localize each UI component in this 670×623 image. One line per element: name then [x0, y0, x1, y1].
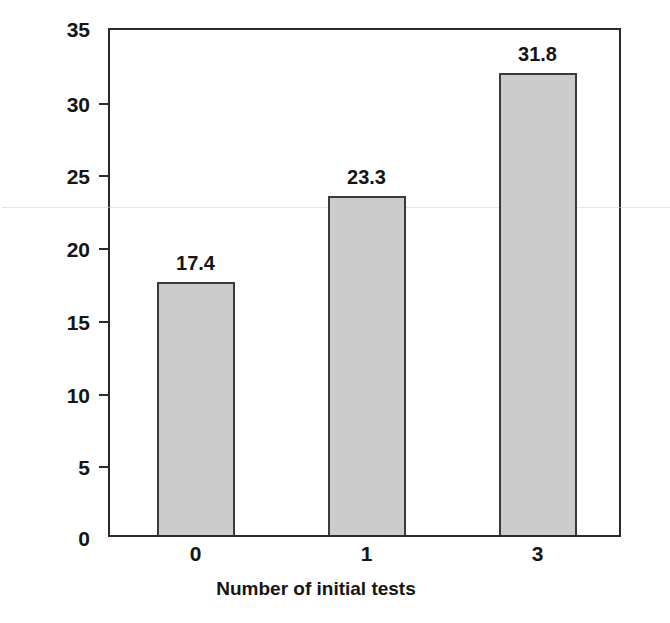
bar: 23.3 — [328, 196, 406, 535]
y-axis-tick: 15 — [99, 321, 110, 323]
bar-value-label: 23.3 — [347, 166, 386, 189]
y-axis-tick: 25 — [99, 175, 110, 177]
x-axis-title-text: Number of initial tests — [216, 578, 416, 600]
bar-value-label: 17.4 — [176, 252, 215, 275]
y-axis-tick: 20 — [99, 248, 110, 250]
y-axis-tick: 30 — [99, 103, 110, 105]
x-axis-tick-label: 0 — [190, 542, 202, 566]
y-axis-tick-label: 0 — [78, 527, 90, 551]
y-axis-tick-label: 30 — [67, 93, 90, 117]
y-axis-tick-label: 15 — [67, 311, 90, 335]
y-axis-tick-label: 5 — [78, 456, 90, 480]
x-axis-title: Number of initial tests — [0, 578, 668, 600]
y-axis-tick: 10 — [99, 394, 110, 396]
y-axis-tick: 5 — [99, 466, 110, 468]
x-axis-tick-label: 3 — [532, 542, 544, 566]
bar: 31.8 — [499, 73, 577, 535]
x-axis-tick-label: 1 — [361, 542, 373, 566]
y-axis-tick-label: 10 — [67, 384, 90, 408]
y-axis-tick-label: 20 — [67, 238, 90, 262]
plot-area: 0510152025303517.4023.3131.83 — [108, 28, 621, 537]
y-axis-title: Number of pictures recalled — [0, 0, 46, 623]
y-axis-tick-label: 35 — [67, 18, 90, 42]
bar: 17.4 — [157, 282, 235, 535]
bar-value-label: 31.8 — [518, 43, 557, 66]
y-axis-tick-label: 25 — [67, 165, 90, 189]
